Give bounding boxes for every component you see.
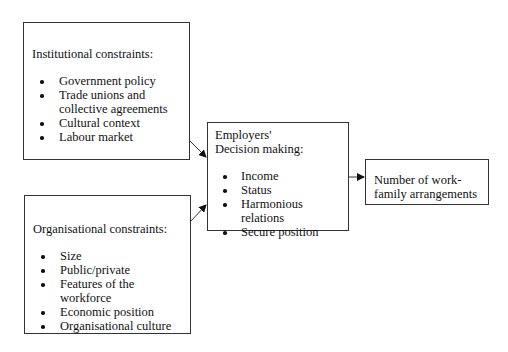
connector-arrows xyxy=(0,0,508,352)
arrow-institutional-to-employers xyxy=(190,141,206,157)
arrow-organisational-to-employers xyxy=(190,205,206,222)
